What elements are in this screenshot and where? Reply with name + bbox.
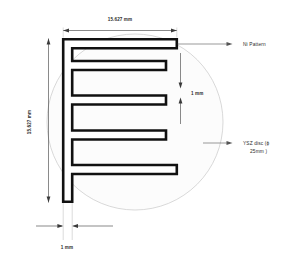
spine-width-dimension-group: 1 mm [36,203,113,250]
ni-pattern-leader-arrow [227,42,233,46]
ysz-disc-callout-label-line2: 25mm ) [250,149,267,154]
height-arrow-bottom [47,197,51,203]
width-dimension-label: 15.627 mm [108,17,132,22]
diagram-root: 15.627 mm 15.627 mm 1 mm [0,0,290,258]
spine-arrow-right [72,224,78,228]
schematic-svg: 15.627 mm 15.627 mm 1 mm [0,0,290,258]
ysz-disc-callout-label-line1: YSZ disc (ϕ [243,141,270,146]
ysz-disc-leader-arrow [227,141,233,145]
height-dimension-label: 15.627 mm [27,110,32,134]
width-dimension-group: 15.627 mm [63,17,177,38]
spine-arrow-left [57,224,63,228]
height-arrow-top [47,39,51,45]
spine-width-label: 1 mm [61,245,73,250]
gap-dimension-label: 1 mm [191,91,203,96]
width-arrow-right [171,29,177,33]
width-arrow-left [63,29,69,33]
ni-pattern-callout-label: Ni Pattern [243,42,266,47]
ni-pattern-callout-group: Ni Pattern [178,42,267,47]
